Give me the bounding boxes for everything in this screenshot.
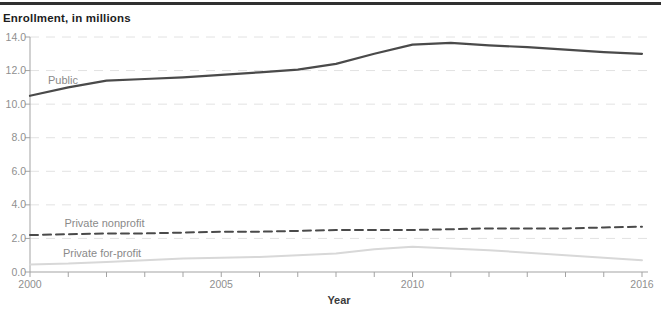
- x-tick-label-2005: 2005: [210, 278, 234, 290]
- x-axis-title: Year: [327, 294, 351, 306]
- y-tick-label-0.0: 0.0: [11, 266, 26, 278]
- y-tick-label-2.0: 2.0: [11, 232, 26, 244]
- y-tick-label-6.0: 6.0: [11, 165, 26, 177]
- series-layer: PublicPrivate nonprofitPrivate for-profi…: [30, 43, 642, 265]
- y-tick-label-8.0: 8.0: [11, 131, 26, 143]
- series-label-private-nonprofit: Private nonprofit: [64, 217, 144, 229]
- x-tick-label-2010: 2010: [401, 278, 425, 290]
- y-tick-label-10.0: 10.0: [6, 98, 27, 110]
- y-tick-label-4.0: 4.0: [11, 198, 26, 210]
- y-tick-label-12.0: 12.0: [6, 64, 27, 76]
- y-tick-label-14.0: 14.0: [6, 31, 27, 43]
- x-tick-label-2016: 2016: [630, 278, 654, 290]
- gridlines-layer: [30, 37, 648, 238]
- figure-top-rule: [0, 2, 661, 5]
- series-line-public: [30, 43, 642, 96]
- series-label-private-for-profit: Private for-profit: [63, 247, 141, 259]
- enrollment-line-chart: 0.02.04.06.08.010.012.014.02000200520102…: [0, 27, 661, 314]
- x-tick-label-2000: 2000: [18, 278, 42, 290]
- series-label-public: Public: [48, 74, 78, 86]
- figure-page: Enrollment, in millions 0.02.04.06.08.01…: [0, 0, 661, 314]
- chart-title: Enrollment, in millions: [3, 12, 131, 24]
